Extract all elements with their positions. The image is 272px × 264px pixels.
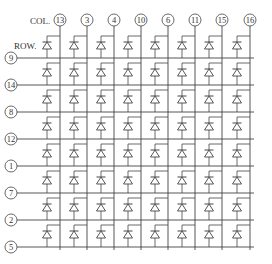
- column-pin-label: 11: [191, 15, 199, 25]
- diode-anode-lead: [47, 117, 60, 123]
- diode-anode-lead: [237, 36, 250, 42]
- row-pin-label: 5: [9, 242, 13, 252]
- diode-icon: [97, 69, 106, 76]
- diode-anode-lead: [209, 144, 222, 150]
- diode-anode-lead: [182, 144, 195, 150]
- diode-icon: [70, 150, 79, 157]
- diode-anode-lead: [237, 225, 250, 231]
- column-pin-label: 15: [218, 15, 227, 25]
- diode-icon: [205, 150, 214, 157]
- diode-icon: [178, 177, 187, 184]
- diode-icon: [43, 231, 52, 238]
- diode-icon: [205, 204, 214, 211]
- diode-icon: [97, 123, 106, 130]
- diode-anode-lead: [101, 117, 114, 123]
- diode-anode-lead: [47, 198, 60, 204]
- diode-icon: [70, 42, 79, 49]
- diode-icon: [124, 231, 133, 238]
- diode-icon: [205, 123, 214, 130]
- diode-icon: [233, 69, 242, 76]
- column-pin-label: 6: [166, 15, 170, 25]
- diode-icon: [43, 42, 52, 49]
- diode-icon: [178, 42, 187, 49]
- diode-anode-lead: [182, 198, 195, 204]
- diode-icon: [151, 231, 160, 238]
- row-pin-label: 2: [9, 215, 13, 225]
- row-pin-label: 9: [9, 53, 13, 63]
- diode-anode-lead: [155, 117, 168, 123]
- diode-icon: [178, 123, 187, 130]
- diode-anode-lead: [74, 198, 87, 204]
- diode-icon: [233, 231, 242, 238]
- diode-icon: [124, 150, 133, 157]
- diode-anode-lead: [128, 36, 141, 42]
- diode-anode-lead: [47, 36, 60, 42]
- diode-anode-lead: [182, 171, 195, 177]
- diode-icon: [233, 177, 242, 184]
- diode-icon: [233, 96, 242, 103]
- diode-icon: [97, 150, 106, 157]
- diode-icon: [151, 204, 160, 211]
- diode-icon: [124, 69, 133, 76]
- diode-anode-lead: [74, 171, 87, 177]
- diode-icon: [70, 231, 79, 238]
- diode-icon: [70, 69, 79, 76]
- diode-anode-lead: [155, 36, 168, 42]
- diode-icon: [97, 231, 106, 238]
- led-matrix-diagram: COL. ROW. 13341061115169148121725: [0, 0, 272, 264]
- diode-icon: [70, 96, 79, 103]
- diode-anode-lead: [155, 144, 168, 150]
- diode-icon: [97, 177, 106, 184]
- diode-icon: [43, 204, 52, 211]
- diode-anode-lead: [128, 198, 141, 204]
- diode-anode-lead: [209, 171, 222, 177]
- diode-anode-lead: [237, 198, 250, 204]
- diode-icon: [178, 231, 187, 238]
- diode-anode-lead: [128, 144, 141, 150]
- diode-icon: [205, 96, 214, 103]
- diode-icon: [233, 150, 242, 157]
- diode-icon: [124, 204, 133, 211]
- diode-icon: [43, 150, 52, 157]
- diode-anode-lead: [155, 171, 168, 177]
- column-pin-label: 16: [246, 15, 255, 25]
- diode-icon: [151, 123, 160, 130]
- diode-icon: [178, 204, 187, 211]
- diode-icon: [70, 177, 79, 184]
- diode-icon: [124, 123, 133, 130]
- diode-anode-lead: [47, 63, 60, 69]
- row-pin-label: 8: [9, 107, 13, 117]
- diode-icon: [151, 177, 160, 184]
- diode-icon: [205, 177, 214, 184]
- diode-anode-lead: [128, 63, 141, 69]
- diode-anode-lead: [155, 90, 168, 96]
- diode-icon: [178, 69, 187, 76]
- diode-anode-lead: [101, 36, 114, 42]
- row-pin-label: 7: [9, 188, 13, 198]
- diode-anode-lead: [47, 90, 60, 96]
- diode-anode-lead: [101, 144, 114, 150]
- diode-icon: [70, 123, 79, 130]
- diode-anode-lead: [237, 63, 250, 69]
- diode-anode-lead: [182, 90, 195, 96]
- diode-anode-lead: [74, 225, 87, 231]
- diode-anode-lead: [128, 90, 141, 96]
- diode-anode-lead: [74, 36, 87, 42]
- diode-anode-lead: [209, 90, 222, 96]
- diode-anode-lead: [182, 63, 195, 69]
- diode-icon: [233, 204, 242, 211]
- diode-icon: [151, 42, 160, 49]
- diode-anode-lead: [47, 171, 60, 177]
- diode-anode-lead: [209, 198, 222, 204]
- diode-icon: [205, 69, 214, 76]
- diode-icon: [70, 204, 79, 211]
- diode-anode-lead: [128, 117, 141, 123]
- diode-anode-lead: [209, 117, 222, 123]
- diode-icon: [233, 42, 242, 49]
- diode-icon: [124, 42, 133, 49]
- row-pin-label: 1: [9, 161, 13, 171]
- diode-icon: [43, 123, 52, 130]
- diode-icon: [178, 150, 187, 157]
- diode-icon: [151, 96, 160, 103]
- diode-icon: [233, 123, 242, 130]
